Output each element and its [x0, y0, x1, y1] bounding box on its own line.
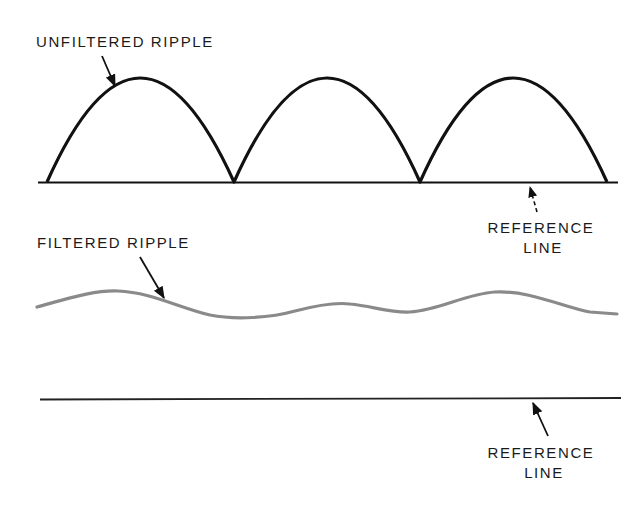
unfiltered-ripple-label: UNFILTERED RIPPLE	[36, 33, 214, 50]
bottom-reference-label-line2: LINE	[524, 464, 564, 481]
filtered-ripple-waveform	[37, 291, 617, 318]
bottom-reference-panel: REFERENCE LINE	[40, 398, 621, 481]
unfiltered-ripple-panel: UNFILTERED RIPPLE REFERENCE LINE	[36, 33, 618, 256]
top-reference-label-line2: LINE	[523, 239, 563, 256]
bottom-reference-label-line1: REFERENCE	[488, 444, 595, 461]
top-reference-arrow-icon	[530, 187, 537, 212]
filtered-ripple-arrow-icon	[140, 257, 164, 298]
unfiltered-ripple-arrow-icon	[102, 56, 115, 86]
bottom-reference-arrow-icon	[533, 403, 548, 436]
filtered-ripple-label: FILTERED RIPPLE	[37, 234, 190, 251]
top-reference-label-line1: REFERENCE	[488, 219, 595, 236]
ripple-diagram: UNFILTERED RIPPLE REFERENCE LINE FILTERE…	[0, 0, 643, 510]
unfiltered-ripple-waveform	[47, 78, 607, 182]
bottom-reference-line	[40, 398, 621, 400]
